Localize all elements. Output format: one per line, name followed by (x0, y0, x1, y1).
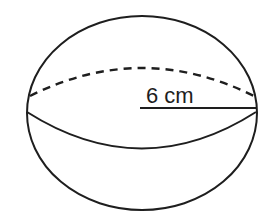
radius-label: 6 cm (146, 83, 194, 108)
background (0, 0, 270, 223)
sphere-diagram: 6 cm (0, 0, 270, 223)
